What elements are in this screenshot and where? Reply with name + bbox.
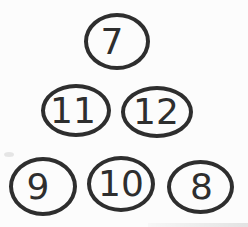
bubble-label-7: 7 [101, 24, 124, 60]
bubble-label-11: 11 [50, 93, 96, 129]
bubble-label-9: 9 [27, 169, 50, 205]
scan-band-artifact [148, 223, 248, 227]
number-bubble-9: 9 [9, 157, 77, 216]
number-bubble-7: 7 [84, 13, 150, 70]
bubble-label-12: 12 [133, 94, 179, 130]
number-bubble-11: 11 [41, 84, 111, 137]
number-bubble-10: 10 [87, 156, 155, 212]
number-bubble-8: 8 [167, 160, 234, 214]
number-bubble-12: 12 [121, 86, 193, 138]
bubble-label-8: 8 [190, 169, 213, 205]
bubble-label-10: 10 [98, 166, 144, 202]
scan-smudge-artifact [4, 152, 14, 157]
number-bubble-figure: 7 11 12 9 10 8 [0, 0, 248, 227]
